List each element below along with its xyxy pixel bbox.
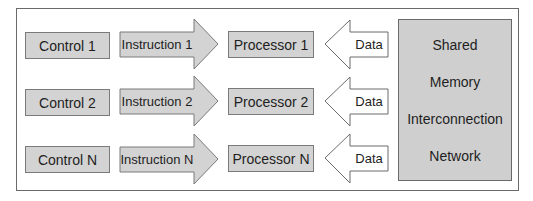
control-2-box: Control 2 [25,89,110,116]
control-n-box: Control N [25,146,110,173]
shared-memory-network-box: Shared Memory Interconnection Network [398,19,512,181]
data-2-label: Data [350,89,388,114]
data-n-label: Data [350,146,388,171]
control-1-box: Control 1 [25,32,110,59]
instruction-2-label: Instruction 2 [120,89,194,114]
processor-n-box: Processor N [228,145,314,172]
instruction-n-label: Instruction N [120,147,194,172]
processor-2-box: Processor 2 [228,88,314,115]
processor-1-box: Processor 1 [228,31,314,58]
data-1-label: Data [350,32,388,57]
shared-memory-line-3: Interconnection [407,111,503,127]
shared-memory-line-2: Memory [430,74,481,90]
shared-memory-line-1: Shared [432,37,477,53]
shared-memory-line-4: Network [429,148,480,164]
instruction-1-label: Instruction 1 [120,32,194,57]
